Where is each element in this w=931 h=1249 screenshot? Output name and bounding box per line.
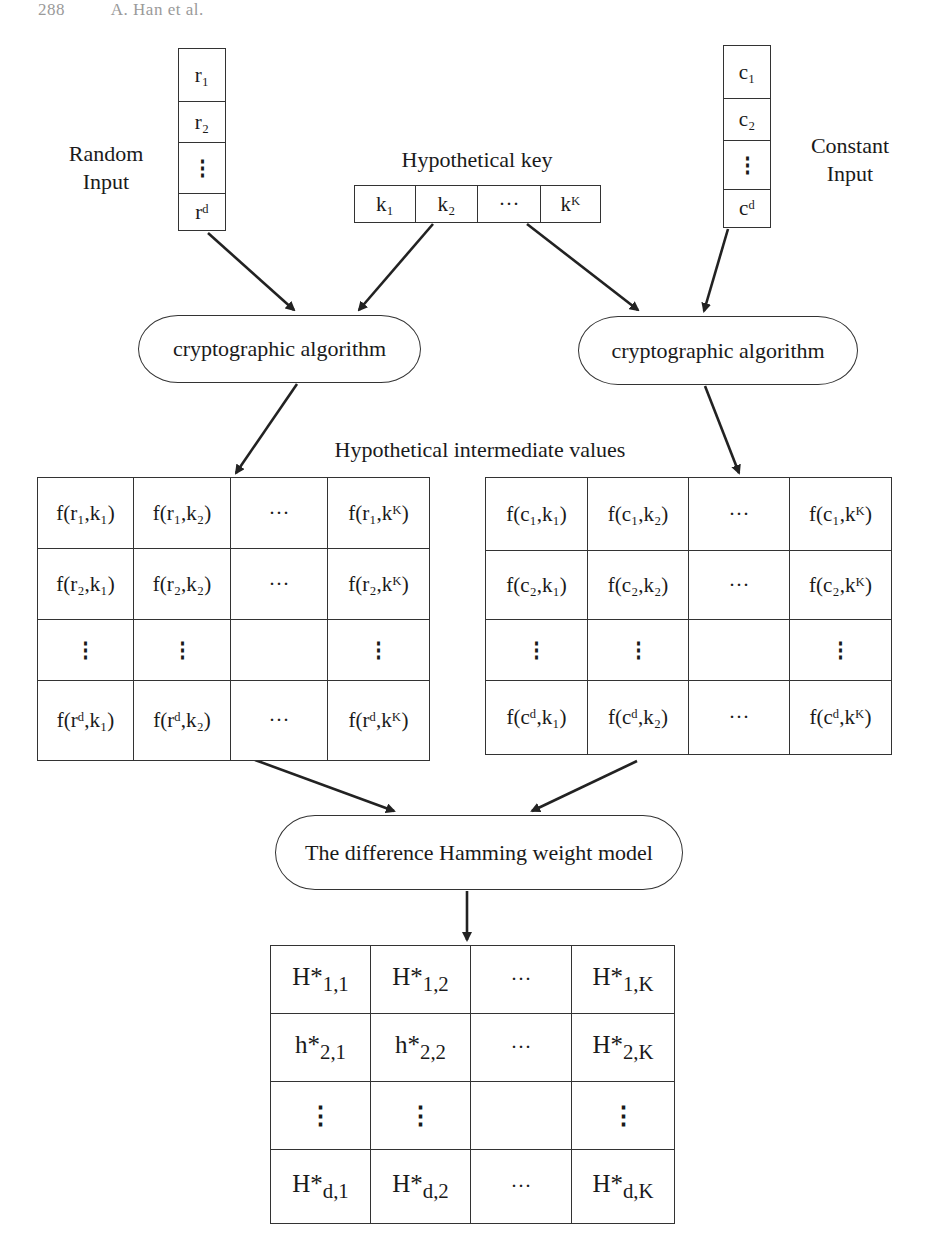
random-input-cell: rᵈ [179,193,225,230]
matrix-cell: ⋮ [38,620,134,681]
table-row: H*d,1 H*d,2 ··· H*d,K [271,1150,675,1224]
random-input-label-line2: Input [52,168,160,196]
hypothetical-key-vector: k₁ k₂ ··· kᴷ [354,185,601,223]
matrix-cell: ⋮ [486,620,588,681]
matrix-cell: ··· [689,681,790,755]
random-input-label: Random Input [52,140,160,196]
key-cell: ··· [477,186,540,222]
hamming-cell: H*1,K [572,946,675,1014]
key-cell: kᴷ [540,186,600,222]
matrix-cell: f(c₂,kᴷ) [790,551,892,620]
arrow-key-to-crypto-right [527,224,638,310]
arrow-matrix-c-to-hamming [532,761,637,811]
random-input-cell: r₁ [179,49,225,101]
matrix-cell: ··· [231,549,328,620]
random-input-cell: r₂ [179,101,225,142]
arrow-crypto-right-to-matrix [705,386,739,473]
hamming-cell: H*1,1 [271,946,371,1014]
matrix-cell: ··· [689,478,790,551]
matrix-cell: f(cᵈ,k₂) [588,681,689,755]
crypto-algorithm-right: cryptographic algorithm [578,316,858,385]
matrix-cell: ⋮ [328,620,430,681]
matrix-cell: f(c₁,k₁) [486,478,588,551]
matrix-hamming-weights: H*1,1 H*1,2 ··· H*1,K h*2,1 h*2,2 ··· H*… [270,945,675,1224]
constant-input-label-line2: Input [790,160,910,188]
key-cell: k₂ [415,186,477,222]
matrix-cell [231,620,328,681]
matrix-cell: f(r₂,k₂) [134,549,231,620]
running-head: A. Han et al. [111,0,204,19]
arrow-random-to-crypto [208,233,294,310]
hamming-weight-model: The difference Hamming weight model [275,815,683,890]
table-row: f(cᵈ,k₁) f(cᵈ,k₂) ··· f(cᵈ,kᴷ) [486,681,892,755]
matrix-cell: ··· [231,681,328,761]
hamming-cell: H*d,K [572,1150,675,1224]
matrix-cell: f(c₁,k₂) [588,478,689,551]
table-row: h*2,1 h*2,2 ··· H*2,K [271,1014,675,1082]
matrix-cell: ⋮ [588,620,689,681]
matrix-cell: f(rᵈ,k₂) [134,681,231,761]
crypto-algorithm-left: cryptographic algorithm [138,315,421,383]
page-number: 288 [38,0,65,19]
hamming-cell: H*1,2 [371,946,471,1014]
matrix-cell: f(r₁,kᴷ) [328,478,430,549]
hamming-weight-model-label: The difference Hamming weight model [305,840,653,866]
table-row: H*1,1 H*1,2 ··· H*1,K [271,946,675,1014]
intermediate-values-label: Hypothetical intermediate values [290,436,670,464]
arrow-constant-to-crypto [704,229,728,311]
arrow-k2-to-crypto-left [359,224,433,310]
hamming-cell: ⋮ [271,1082,371,1150]
hamming-cell: H*2,K [572,1014,675,1082]
hamming-cell: ··· [471,946,572,1014]
constant-input-cell: cᵈ [724,189,770,227]
hypothetical-key-label: Hypothetical key [354,146,600,174]
matrix-cell: ⋮ [134,620,231,681]
random-input-vector: r₁ r₂ ⋮ rᵈ [178,48,226,231]
table-row: f(r₂,k₁) f(r₂,k₂) ··· f(r₂,kᴷ) [38,549,430,620]
hamming-cell [471,1082,572,1150]
table-row: f(r₁,k₁) f(r₁,k₂) ··· f(r₁,kᴷ) [38,478,430,549]
table-row: f(rᵈ,k₁) f(rᵈ,k₂) ··· f(rᵈ,kᴷ) [38,681,430,761]
crypto-algorithm-right-label: cryptographic algorithm [611,338,824,364]
arrow-matrix-r-to-hamming [255,760,394,811]
matrix-cell [689,620,790,681]
table-row: ⋮ ⋮ ⋮ [486,620,892,681]
constant-input-cell: ⋮ [724,140,770,189]
constant-input-cell: c₁ [724,46,770,98]
matrix-constant-intermediate: f(c₁,k₁) f(c₁,k₂) ··· f(c₁,kᴷ) f(c₂,k₁) … [485,477,892,755]
matrix-random-intermediate: f(r₁,k₁) f(r₁,k₂) ··· f(r₁,kᴷ) f(r₂,k₁) … [37,477,430,761]
matrix-cell: f(rᵈ,k₁) [38,681,134,761]
hamming-cell: h*2,1 [271,1014,371,1082]
matrix-cell: ⋮ [790,620,892,681]
matrix-cell: f(rᵈ,kᴷ) [328,681,430,761]
hamming-cell: ··· [471,1014,572,1082]
matrix-cell: f(r₁,k₁) [38,478,134,549]
hamming-cell: H*d,1 [271,1150,371,1224]
matrix-cell: f(cᵈ,kᴷ) [790,681,892,755]
random-input-cell: ⋮ [179,142,225,193]
matrix-cell: f(r₁,k₂) [134,478,231,549]
hamming-cell: h*2,2 [371,1014,471,1082]
matrix-cell: f(r₂,kᴷ) [328,549,430,620]
constant-input-label-line1: Constant [790,132,910,160]
hamming-cell: ⋮ [371,1082,471,1150]
constant-input-cell: c₂ [724,98,770,140]
matrix-cell: f(r₂,k₁) [38,549,134,620]
key-cell: k₁ [355,186,415,222]
constant-input-label: Constant Input [790,132,910,188]
matrix-cell: ··· [231,478,328,549]
table-row: ⋮ ⋮ ⋮ [38,620,430,681]
hamming-cell: H*d,2 [371,1150,471,1224]
constant-input-vector: c₁ c₂ ⋮ cᵈ [723,45,771,228]
table-row: f(c₁,k₁) f(c₁,k₂) ··· f(c₁,kᴷ) [486,478,892,551]
table-row: f(c₂,k₁) f(c₂,k₂) ··· f(c₂,kᴷ) [486,551,892,620]
random-input-label-line1: Random [52,140,160,168]
hamming-cell: ⋮ [572,1082,675,1150]
table-row: ⋮ ⋮ ⋮ [271,1082,675,1150]
matrix-cell: f(c₁,kᴷ) [790,478,892,551]
hamming-cell: ··· [471,1150,572,1224]
matrix-cell: f(c₂,k₁) [486,551,588,620]
page-header: 288 A. Han et al. [38,0,204,20]
crypto-algorithm-left-label: cryptographic algorithm [173,336,386,362]
matrix-cell: f(cᵈ,k₁) [486,681,588,755]
